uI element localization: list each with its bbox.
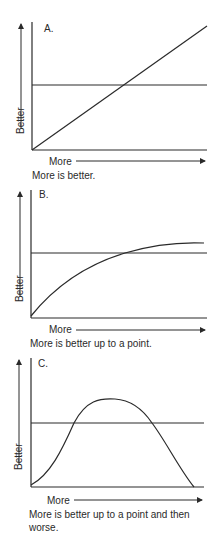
x-axis-label: More — [49, 156, 72, 167]
diagram-c: Better C. More More is better up to a po… — [13, 358, 204, 533]
diagram-label: A. — [44, 23, 53, 34]
x-axis-label: More — [49, 324, 72, 335]
caption-line-2: worse. — [28, 522, 58, 533]
x-axis-label: More — [47, 495, 70, 506]
caption: More is better. — [32, 170, 95, 181]
caption-line-1: More is better up to a point and then — [29, 509, 190, 520]
diagram-label: C. — [38, 358, 48, 369]
caption: More is better up to a point. — [30, 338, 152, 349]
curve-plateau — [31, 243, 204, 316]
y-axis-label: Better — [15, 107, 26, 134]
diagram-a: Better A. More More is better. — [15, 22, 207, 181]
curve-inverted-u — [31, 399, 194, 487]
curve-linear — [32, 26, 207, 150]
diagram-b: Better B. More More is better up to a po… — [14, 189, 207, 349]
y-axis-label: Better — [14, 275, 25, 302]
diagram-canvas: Better A. More More is better. Better B.… — [0, 0, 219, 542]
diagram-label: B. — [39, 189, 48, 200]
y-axis-label: Better — [13, 443, 24, 470]
